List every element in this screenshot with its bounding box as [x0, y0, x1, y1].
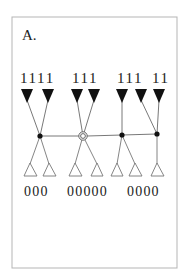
bottom-label-group-1: 000: [24, 184, 49, 199]
top-label-group-1: 1111: [20, 70, 55, 86]
filled-node-icon: [37, 133, 42, 138]
bottom-label-group-2: 00000: [67, 184, 108, 199]
top-label-group-4: 11: [152, 70, 170, 86]
double-circle-node-inner-icon: [81, 134, 86, 139]
panel-frame: [12, 17, 177, 268]
tree-diagram: A. 1111 111 111 11: [0, 0, 190, 278]
bottom-label-group-3: 0000: [127, 184, 160, 199]
filled-node-icon: [154, 131, 159, 136]
top-label-group-2: 111: [72, 70, 98, 86]
bottom-labels: 000 00000 0000: [24, 184, 160, 199]
top-label-group-3: 111: [117, 70, 143, 86]
filled-node-icon: [119, 132, 124, 137]
panel-label: A.: [22, 27, 37, 43]
